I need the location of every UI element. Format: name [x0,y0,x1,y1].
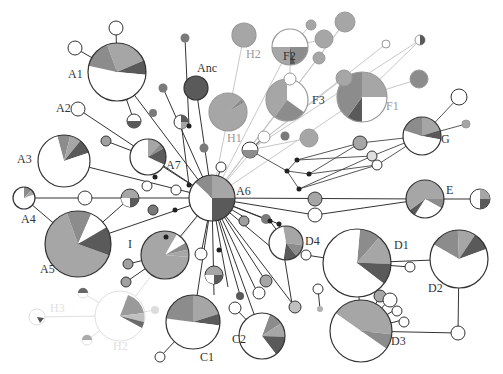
label-d1: D1 [394,238,409,252]
pie-slice [283,226,303,245]
haplotype-node-g [403,117,441,155]
pie-slice [272,29,308,47]
label-h1: H1 [227,131,242,145]
label-a6: A6 [236,184,251,198]
haplotype-node-a6 [189,175,235,221]
haplotype-node-h2 [232,23,256,47]
label-d3: D3 [391,334,406,348]
haplotype-node-e [406,180,444,218]
label-a5: A5 [40,262,55,276]
label-a4: A4 [21,212,36,226]
label-anc: Anc [197,61,217,75]
haplotype-node-anc [184,76,208,100]
label-h3: H3 [50,301,65,315]
label-h2b: H2 [113,339,128,353]
haplotype-node-c1 [166,295,220,349]
haplotype-node-a5 [45,211,111,277]
haplotype-node-a7 [130,139,166,175]
haplotype-network: A1A2A3A4A5A6A7AncH1H2F1F2F3GED1D2D3D4C1C… [0,0,503,374]
haplotype-node-d1 [323,229,391,297]
haplotype-node-d2 [430,230,488,288]
label-a7: A7 [166,158,181,172]
label-e: E [446,183,453,197]
label-c1: C1 [200,350,214,364]
haplotype-node-h1 [209,93,247,131]
label-a1: A1 [68,67,83,81]
label-h2: H2 [246,47,261,61]
haplotype-node-d3 [330,300,392,362]
pie-slice [406,180,444,199]
label-g: G [441,132,450,146]
label-a3: A3 [17,152,32,166]
label-c2: C2 [232,332,246,346]
haplotype-node-a1 [88,43,146,101]
label-d4: D4 [305,234,320,248]
haplotype-node-f3 [266,79,308,121]
label-f3: F3 [312,93,325,107]
haplotype-node-a4 [13,187,35,209]
haplotype-node-d4 [269,226,303,260]
haplotype-node-a3 [38,135,90,187]
label-f1: F1 [386,99,399,113]
label-d2: D2 [428,281,443,295]
network-canvas: A1A2A3A4A5A6A7AncH1H2F1F2F3GED1D2D3D4C1C… [0,0,503,374]
label-i: I [128,237,132,251]
label-f2: F2 [283,49,296,63]
pie-slice [269,226,286,260]
label-a2: A2 [56,101,71,115]
